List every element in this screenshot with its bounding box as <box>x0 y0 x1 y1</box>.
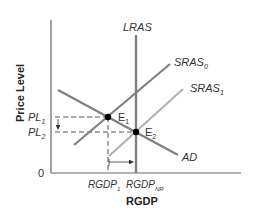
ad-label: AD <box>181 151 197 163</box>
e1-label: E1 <box>118 111 129 125</box>
ad-as-diagram: LRAS SRAS0 SRAS1 AD E1 E2 PL1 PL2 0 RGDP… <box>0 0 254 216</box>
pl2-label: PL2 <box>28 126 45 140</box>
e2-point <box>133 129 139 135</box>
e1-point <box>105 114 111 120</box>
origin-label: 0 <box>38 167 44 179</box>
rgdpnr-label: RGDPNR <box>126 179 164 192</box>
sras1-label: SRAS1 <box>190 82 224 96</box>
x-axis-title: RGDP <box>126 195 158 207</box>
rgdp1-label: RGDP1 <box>88 179 120 192</box>
pl1-label: PL1 <box>28 111 45 125</box>
lras-label: LRAS <box>123 21 152 33</box>
y-axis-title: Price Level <box>14 64 26 122</box>
sras0-label: SRAS0 <box>174 56 208 70</box>
e2-label: E2 <box>145 126 156 140</box>
